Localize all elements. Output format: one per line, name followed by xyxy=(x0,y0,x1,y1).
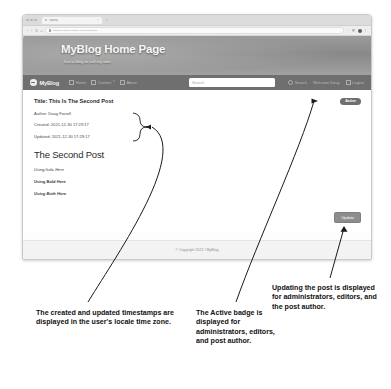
copyright-text: © Copyright 2021 / MyBlog xyxy=(176,248,219,252)
brand-name: MyBlog xyxy=(40,80,60,86)
post-author: Author: Doug Farrell xyxy=(34,111,360,116)
url-text: https://myblog.example.com/blog/post/2 xyxy=(53,29,97,32)
lock-icon xyxy=(49,29,51,32)
post-title: Title: This Is The Second Post xyxy=(34,98,360,104)
search-button-label: Search xyxy=(295,80,307,85)
post-detail-panel: Title: This Is The Second Post Author: D… xyxy=(23,90,371,232)
forward-icon[interactable]: › xyxy=(31,29,32,33)
nav-links: Home Content ▾ About xyxy=(69,80,137,85)
content-icon xyxy=(91,80,96,85)
reload-icon[interactable]: ↻ xyxy=(35,29,38,33)
status-badge: Active xyxy=(340,98,361,105)
maximize-window-icon[interactable] xyxy=(34,19,37,22)
post-created-timestamp: Created: 2021-12-30 17:29:17 xyxy=(34,122,360,127)
new-tab-icon[interactable]: + xyxy=(104,18,108,22)
site-footer: © Copyright 2021 / MyBlog xyxy=(23,240,371,259)
logout-button[interactable]: Logout xyxy=(346,80,365,85)
nav-item-label: Content xyxy=(98,80,112,85)
post-line-bold-italic: Using Both Here xyxy=(34,191,360,196)
hero-subtitle: Just a blog to call my own xyxy=(63,59,165,64)
post-heading: The Second Post xyxy=(34,149,360,160)
annotation-update-button: Updating the post is displayed for admin… xyxy=(272,284,384,312)
annotation-active-badge: The Active badge is displayed for admini… xyxy=(196,309,288,346)
nav-item-about[interactable]: About xyxy=(120,80,137,85)
bookmark-star-icon[interactable]: ☆ xyxy=(347,29,350,32)
hero-text-block: MyBlog Home Page Just a blog to call my … xyxy=(61,43,165,64)
search-placeholder: Search xyxy=(192,81,204,85)
browser-menu-icon[interactable]: ⋮ xyxy=(364,29,367,32)
post-line-italic: Using Italic Here xyxy=(34,167,360,172)
chevron-down-icon: ▾ xyxy=(113,81,115,84)
post-line-bold: Using Bold Here xyxy=(34,179,360,184)
close-window-icon[interactable] xyxy=(26,19,29,22)
nav-item-label: Home xyxy=(76,80,86,85)
url-input[interactable]: https://myblog.example.com/blog/post/2 xyxy=(45,27,344,35)
annotation-timestamps: The created and updated timestamps are d… xyxy=(36,309,186,328)
close-tab-icon[interactable]: × xyxy=(97,19,99,22)
search-button[interactable]: Search xyxy=(288,80,307,85)
hero-banner: MyBlog Home Page Just a blog to call my … xyxy=(23,36,371,75)
browser-tab[interactable]: MyBlog × xyxy=(42,17,102,24)
welcome-label: Welcome Doug xyxy=(313,80,340,85)
logout-icon xyxy=(346,80,351,85)
back-icon[interactable]: ‹ xyxy=(27,29,28,33)
browser-window: MyBlog × + ‹ › ↻ ⌂ https://myblog.exampl… xyxy=(22,14,372,260)
about-icon xyxy=(120,80,125,85)
logout-label: Logout xyxy=(352,80,364,85)
window-controls[interactable] xyxy=(26,19,37,22)
favicon-icon xyxy=(45,19,48,22)
browser-tab-bar: MyBlog × + xyxy=(23,15,371,26)
search-input[interactable]: Search xyxy=(189,78,275,87)
update-button[interactable]: Update xyxy=(334,212,361,223)
browser-toolbar-right: ☆ ▦ ⋮ xyxy=(347,29,368,33)
search-icon xyxy=(288,80,293,85)
post-updated-timestamp: Updated: 2021-12-30 17:29:17 xyxy=(34,134,360,139)
extensions-icon[interactable]: ▦ xyxy=(352,29,355,32)
site-navbar: MyBlog Home Content ▾ About Search Sear xyxy=(23,75,371,90)
nav-item-content[interactable]: Content ▾ xyxy=(91,80,115,85)
hero-title: MyBlog Home Page xyxy=(61,43,165,55)
nav-item-home[interactable]: Home xyxy=(69,80,86,85)
welcome-user: Welcome Doug xyxy=(313,80,340,85)
nav-right-group: Search Welcome Doug Logout xyxy=(288,80,364,85)
browser-address-bar: ‹ › ↻ ⌂ https://myblog.example.com/blog/… xyxy=(23,26,371,36)
home-icon xyxy=(69,80,74,85)
brand[interactable]: MyBlog xyxy=(30,79,59,86)
home-icon[interactable]: ⌂ xyxy=(40,29,42,33)
brand-logo-icon xyxy=(30,79,37,86)
avatar[interactable] xyxy=(358,29,362,33)
tab-title: MyBlog xyxy=(49,19,58,22)
minimize-window-icon[interactable] xyxy=(30,19,33,22)
nav-item-label: About xyxy=(127,80,137,85)
